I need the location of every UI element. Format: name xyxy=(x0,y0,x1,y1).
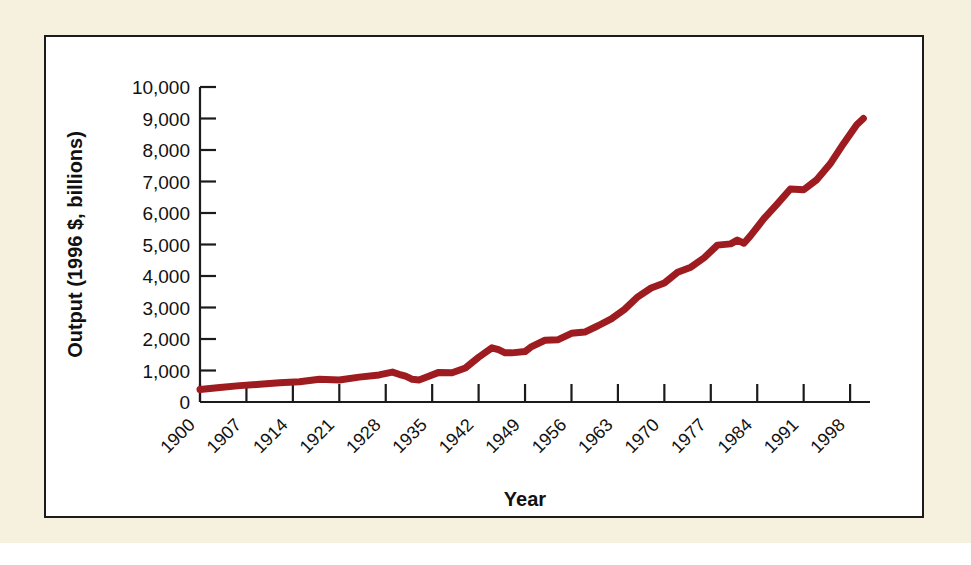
y-tick-marks xyxy=(200,87,216,371)
x-axis-group: 1900190719141921192819351942194919561963… xyxy=(156,384,870,510)
data-series-line xyxy=(200,119,863,390)
x-tick-label: 1984 xyxy=(714,415,756,457)
y-axis-title: Output (1996 $, billions) xyxy=(64,131,86,358)
chart-panel: 01,0002,0003,0004,0005,0006,0007,0008,00… xyxy=(44,35,924,518)
x-tick-label: 1970 xyxy=(621,415,663,457)
x-tick-label: 1935 xyxy=(389,415,431,457)
y-tick-label: 9,000 xyxy=(142,109,190,130)
x-tick-label: 1907 xyxy=(203,415,245,457)
y-tick-label: 5,000 xyxy=(142,235,190,256)
x-axis-title: Year xyxy=(504,488,546,510)
x-tick-label: 1977 xyxy=(667,415,709,457)
x-tick-label: 1942 xyxy=(435,415,477,457)
x-tick-label: 1998 xyxy=(806,415,848,457)
y-tick-label: 6,000 xyxy=(142,203,190,224)
y-tick-label: 1,000 xyxy=(142,361,190,382)
y-tick-label: 8,000 xyxy=(142,140,190,161)
y-tick-label: 7,000 xyxy=(142,172,190,193)
output-line-chart: 01,0002,0003,0004,0005,0006,0007,0008,00… xyxy=(46,37,926,520)
x-tick-label: 1991 xyxy=(760,415,802,457)
y-tick-label: 2,000 xyxy=(142,329,190,350)
x-tick-label: 1921 xyxy=(296,415,338,457)
x-tick-label: 1900 xyxy=(156,415,198,457)
x-tick-label: 1956 xyxy=(528,415,570,457)
y-axis-group: 01,0002,0003,0004,0005,0006,0007,0008,00… xyxy=(64,77,216,413)
y-tick-labels: 01,0002,0003,0004,0005,0006,0007,0008,00… xyxy=(132,77,190,413)
x-tick-marks xyxy=(200,384,850,402)
x-tick-label: 1914 xyxy=(249,415,291,457)
x-tick-label: 1928 xyxy=(342,415,384,457)
x-tick-label: 1963 xyxy=(574,415,616,457)
y-tick-label: 4,000 xyxy=(142,266,190,287)
y-tick-label: 10,000 xyxy=(132,77,190,98)
x-tick-label: 1949 xyxy=(481,415,523,457)
y-tick-label: 3,000 xyxy=(142,298,190,319)
y-tick-label: 0 xyxy=(179,392,190,413)
series-group xyxy=(200,119,863,390)
x-tick-labels: 1900190719141921192819351942194919561963… xyxy=(156,415,849,457)
